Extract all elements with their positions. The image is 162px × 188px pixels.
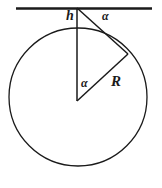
label-alpha-top: α [102,10,109,22]
figure-canvas [0,0,162,188]
label-radius: R [111,74,121,89]
label-alpha-center: α [81,77,88,89]
circle-shape [9,28,147,166]
geometry-figure: h α α R [0,0,162,188]
label-h: h [66,9,74,23]
